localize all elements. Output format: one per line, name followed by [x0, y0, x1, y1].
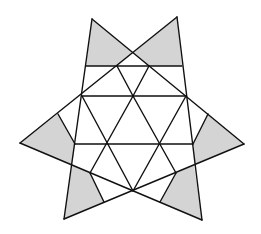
star-diagram [0, 0, 261, 234]
shaded-top-left [86, 19, 133, 66]
shaded-right [193, 114, 244, 165]
